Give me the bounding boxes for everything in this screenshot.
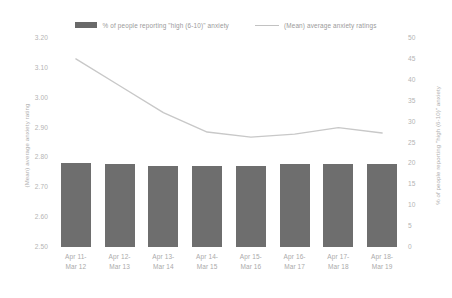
bar <box>105 164 135 247</box>
y-axis-right-tick: 45 <box>408 55 432 63</box>
y-axis-left-tick: 3.10 <box>22 64 48 72</box>
y-axis-right-tick: 35 <box>408 97 432 105</box>
y-axis-right-tick: 5 <box>408 222 432 230</box>
x-axis-label-line: Mar 19 <box>360 262 404 272</box>
x-axis-label-line: Apr 13- <box>142 252 186 262</box>
legend-item-line-series[interactable]: (Mean) average anxiety ratings <box>255 22 377 29</box>
y-axis-right-tick: 0 <box>408 243 432 251</box>
x-axis-label-line: Apr 17- <box>317 252 361 262</box>
y-axis-right-tick: 10 <box>408 201 432 209</box>
bar <box>280 164 310 247</box>
x-axis-label: Apr 12-Mar 13 <box>98 252 142 272</box>
y-axis-right-tick: 15 <box>408 180 432 188</box>
y-axis-left-tick: 2.80 <box>22 153 48 161</box>
bar <box>148 166 178 248</box>
x-axis-label-line: Mar 12 <box>54 262 98 272</box>
x-axis-label-line: Apr 12- <box>98 252 142 262</box>
bar <box>323 164 353 247</box>
y-axis-right-tick: 40 <box>408 76 432 84</box>
bar <box>192 166 222 247</box>
x-axis-label: Apr 11-Mar 12 <box>54 252 98 272</box>
y-axis-right-tick: 20 <box>408 159 432 167</box>
bar <box>236 166 266 248</box>
y-axis-left-tick: 2.70 <box>22 183 48 191</box>
x-axis-label: Apr 14-Mar 15 <box>185 252 229 272</box>
x-axis-label-line: Mar 17 <box>273 262 317 272</box>
x-axis-label: Apr 13-Mar 14 <box>142 252 186 272</box>
y-axis-left-tick: 2.50 <box>22 243 48 251</box>
y-axis-right-tick: 50 <box>408 34 432 42</box>
bar-swatch-icon <box>75 22 97 28</box>
x-axis-label-line: Mar 13 <box>98 262 142 272</box>
legend-label-bar-series: % of people reporting "high (6-10)" anxi… <box>102 22 228 29</box>
chart-legend: % of people reporting "high (6-10)" anxi… <box>0 18 452 32</box>
y-axis-left-tick: 3.00 <box>22 94 48 102</box>
x-axis-label-line: Apr 15- <box>229 252 273 262</box>
plot-area <box>54 38 404 247</box>
x-axis-label: Apr 15-Mar 16 <box>229 252 273 272</box>
y-axis-left-tick: 3.20 <box>22 34 48 42</box>
y-axis-right-title: % of people reporting "high (6-10)" anxi… <box>434 71 441 221</box>
x-axis-labels: Apr 11-Mar 12Apr 12-Mar 13Apr 13-Mar 14A… <box>54 252 404 282</box>
bar <box>61 163 91 247</box>
legend-item-bar-series[interactable]: % of people reporting "high (6-10)" anxi… <box>75 22 228 29</box>
y-axis-right-tick: 25 <box>408 139 432 147</box>
bar <box>367 164 397 247</box>
x-axis-label-line: Apr 18- <box>360 252 404 262</box>
x-axis-label: Apr 18-Mar 19 <box>360 252 404 272</box>
y-axis-left-ticks: 3.203.103.002.902.802.702.602.50 <box>22 0 48 298</box>
x-axis-label-line: Mar 16 <box>229 262 273 272</box>
anxiety-chart: % of people reporting "high (6-10)" anxi… <box>0 0 452 298</box>
x-axis-label-line: Mar 14 <box>142 262 186 272</box>
y-axis-left-tick: 2.60 <box>22 213 48 221</box>
y-axis-left-tick: 2.90 <box>22 124 48 132</box>
x-axis-label-line: Mar 15 <box>185 262 229 272</box>
y-axis-right-tick: 30 <box>408 118 432 126</box>
x-axis-label-line: Apr 14- <box>185 252 229 262</box>
line-swatch-icon <box>255 25 279 26</box>
x-axis-label-line: Mar 18 <box>317 262 361 272</box>
y-axis-right-ticks: 50454035302520151050 <box>408 0 432 298</box>
x-axis-label: Apr 17-Mar 18 <box>317 252 361 272</box>
x-axis-label-line: Apr 16- <box>273 252 317 262</box>
x-axis-label-line: Apr 11- <box>54 252 98 262</box>
legend-label-line-series: (Mean) average anxiety ratings <box>284 22 377 29</box>
x-axis-label: Apr 16-Mar 17 <box>273 252 317 272</box>
